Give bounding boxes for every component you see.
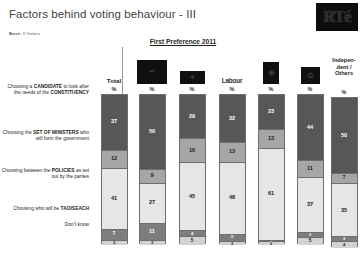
column-header-green: ✿	[291, 47, 329, 84]
bar-segment-fine-gael-choosing: 9	[140, 170, 165, 184]
bar-segment-labour-choosing: 13	[220, 143, 245, 163]
bar-value-label: 37	[307, 202, 313, 208]
bar-value-label: 35	[341, 208, 347, 214]
bar-segment-independent-choosing: 7	[332, 174, 357, 185]
stacked-bar-independent[interactable]: 5073534	[331, 97, 358, 247]
bar-value-label: 23	[268, 109, 274, 115]
bar-segment-labour-choosing: 32	[220, 95, 245, 143]
column-independent: Indepen-dent /Others%5073534	[325, 47, 361, 247]
fine-gael-logo-glyph: ✒	[149, 68, 156, 76]
rte-logo-text: RTé	[323, 7, 351, 27]
column-header-total: Total	[95, 47, 133, 84]
column-total: Total%37124173	[95, 47, 133, 244]
bar-segment-sinn-fein-don't: 2	[259, 242, 284, 245]
row-label-ministers: Choosing the SET OF MINISTERS who will f…	[1, 130, 89, 142]
bar-segment-total-choosing: 37	[102, 95, 127, 151]
bar-segment-independent-choosing: 50	[332, 98, 357, 174]
slide-root: Factors behind voting behaviour - III Ba…	[0, 0, 361, 256]
bar-segment-fianna-fail-choosing: 45	[180, 163, 205, 231]
row-label-candidate: Choosing a CANDIDATE to look after the n…	[1, 84, 89, 96]
bar-segment-green-choosing: 44	[298, 95, 323, 161]
bar-segment-fine-gael-choosing: 11	[140, 224, 165, 241]
bar-value-label: 45	[189, 194, 195, 200]
bar-value-label: 29	[189, 114, 195, 120]
stacked-bar-green[interactable]: 44113735	[297, 94, 324, 244]
bar-segment-fianna-fail-choosing: 16	[180, 139, 205, 163]
column-fianna-fail: ✦%29164545	[173, 47, 211, 244]
bar-value-label: 13	[229, 149, 235, 155]
bar-value-label: 16	[189, 148, 195, 154]
labour-logo: Labour	[222, 77, 242, 84]
bar-value-label: 41	[111, 196, 117, 202]
row-label-dont-know: Don’t know	[1, 222, 89, 228]
bar-value-label: 13	[268, 136, 274, 142]
bar-segment-fine-gael-don't: 3	[140, 241, 165, 246]
bar-value-label: 37	[111, 119, 117, 125]
bar-segment-sinn-fein-choosing: 61	[259, 149, 284, 241]
bar-value-label: 2	[231, 242, 233, 245]
column-header-labour: Labour	[213, 47, 251, 84]
stacked-bar-fianna-fail[interactable]: 29164545	[179, 94, 206, 244]
bar-value-label: 7	[343, 176, 346, 181]
column-percent-symbol-labour: %	[213, 84, 251, 94]
bar-segment-sinn-fein-choosing: 23	[259, 95, 284, 130]
bar-segment-total-choosing: 7	[102, 230, 127, 241]
base-label: Base:	[9, 31, 22, 36]
bar-value-label: 50	[341, 133, 347, 139]
bar-value-label: 48	[229, 195, 235, 201]
green-party-logo: ✿	[301, 67, 320, 84]
bar-segment-fine-gael-choosing: 50	[140, 95, 165, 170]
fianna-fail-logo: ✦	[180, 71, 205, 84]
column-percent-symbol-total: %	[95, 84, 133, 94]
bar-segment-green-choosing: 11	[298, 161, 323, 178]
bar-value-label: 32	[229, 116, 235, 122]
column-green: ✿%44113735	[291, 47, 329, 244]
bar-segment-fianna-fail-choosing: 29	[180, 95, 205, 139]
bar-value-label: 5	[231, 235, 234, 240]
bar-segment-sinn-fein-choosing: 13	[259, 130, 284, 150]
page-title: Factors behind voting behaviour - III	[9, 8, 196, 20]
bar-segment-independent-don't: 4	[332, 242, 357, 248]
row-label-taoiseach: Choosing who will be TAOISEACH	[1, 206, 89, 212]
column-header-fine-gael: ✒	[133, 47, 171, 84]
chart-subtitle: First Preference 2011	[150, 38, 216, 45]
bar-value-label: 11	[307, 166, 313, 172]
sinn-fein-logo: ◉	[263, 62, 279, 84]
column-percent-symbol-sinn-fein: %	[252, 84, 290, 94]
bar-segment-labour-don't: 2	[220, 242, 245, 245]
fine-gael-logo: ✒	[137, 60, 167, 84]
stacked-bar-total[interactable]: 37124173	[101, 94, 128, 244]
bar-value-label: 3	[151, 241, 153, 245]
bar-value-label: 50	[149, 129, 155, 135]
bar-value-label: 3	[343, 237, 345, 241]
sinn-fein-logo-glyph: ◉	[268, 69, 275, 77]
bar-value-label: 12	[111, 156, 117, 162]
bar-value-label: 3	[113, 241, 115, 245]
base-value: ll Voters	[23, 31, 40, 36]
bar-segment-total-don't: 3	[102, 241, 127, 246]
bar-segment-total-choosing: 41	[102, 169, 127, 231]
stacked-bar-labour[interactable]: 32134852	[219, 94, 246, 244]
stacked-bar-fine-gael[interactable]: 50927113	[139, 94, 166, 244]
row-label-policies: Choosing between the POLICIES as set out…	[1, 168, 89, 180]
column-percent-symbol-independent: %	[325, 87, 361, 97]
bar-segment-fianna-fail-don't: 5	[180, 237, 205, 245]
bar-value-label: 4	[343, 243, 345, 247]
bar-value-label: 7	[113, 232, 116, 237]
column-label-total: Total	[107, 77, 121, 84]
bar-value-label: 11	[149, 229, 155, 235]
bar-value-label: 9	[150, 173, 153, 179]
stacked-bar-sinn-fein[interactable]: 23136112	[258, 94, 285, 244]
column-header-independent: Indepen-dent /Others	[325, 47, 361, 87]
bar-segment-fine-gael-choosing: 27	[140, 184, 165, 225]
column-percent-symbol-fine-gael: %	[133, 84, 171, 94]
column-fine-gael: ✒%50927113	[133, 47, 171, 244]
column-header-sinn-fein: ◉	[252, 47, 290, 84]
fianna-fail-logo-glyph: ✦	[189, 74, 196, 82]
bar-segment-labour-choosing: 5	[220, 235, 245, 243]
bar-value-label: 27	[149, 200, 155, 206]
bar-value-label: 61	[268, 191, 274, 197]
green-party-logo-glyph: ✿	[307, 72, 314, 80]
column-label-independent: Indepen-dent /Others	[332, 57, 355, 77]
rte-logo: RTé	[316, 3, 358, 31]
